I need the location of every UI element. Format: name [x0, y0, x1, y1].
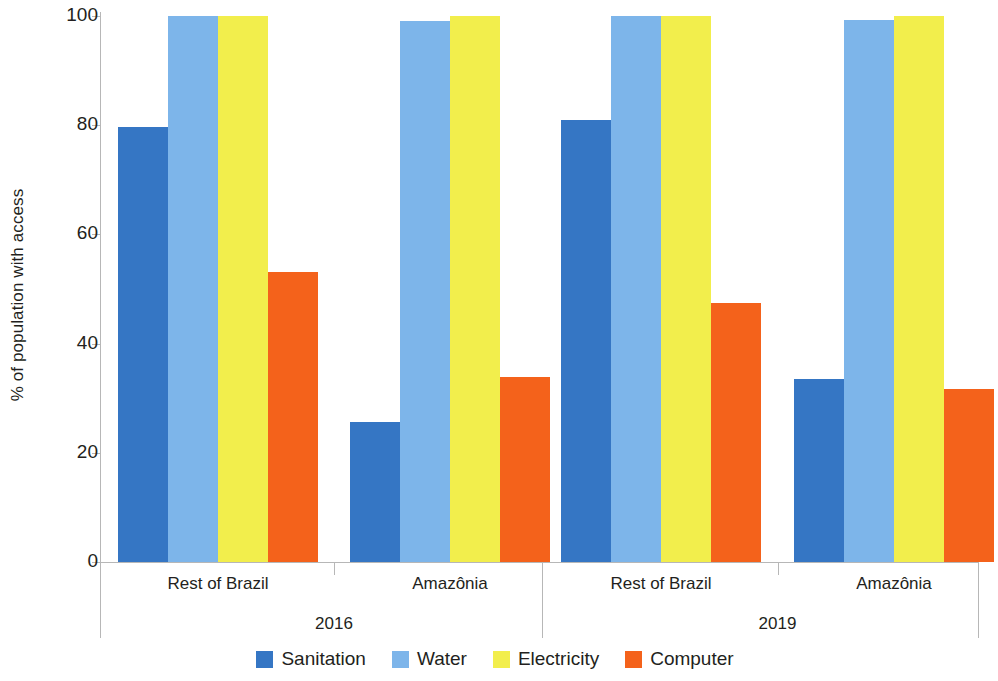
legend-label: Electricity — [518, 648, 599, 670]
bar-sanitation-3 — [794, 379, 844, 562]
bar-computer-1 — [500, 377, 550, 562]
x-axis-group-label: 2016 — [254, 614, 414, 634]
plot-area — [100, 16, 978, 562]
legend-swatch-icon — [493, 651, 510, 668]
bar-electricity-0 — [218, 16, 268, 562]
bar-water-3 — [844, 20, 894, 562]
legend-item-electricity[interactable]: Electricity — [493, 648, 599, 670]
bar-computer-2 — [711, 303, 761, 562]
y-axis-title: % of population with access — [6, 22, 30, 568]
bar-water-1 — [400, 21, 450, 562]
legend-item-computer[interactable]: Computer — [625, 648, 733, 670]
y-axis-tick-label: 20 — [38, 441, 98, 463]
group-separator — [542, 562, 543, 638]
x-axis-group-tick — [334, 562, 335, 575]
chart-legend: SanitationWaterElectricityComputer — [0, 648, 990, 670]
legend-swatch-icon — [392, 651, 409, 668]
y-axis-tick-label: 60 — [38, 222, 98, 244]
legend-label: Water — [417, 648, 467, 670]
x-axis-category-label: Rest of Brazil — [551, 574, 771, 594]
x-axis-group-tick — [778, 562, 779, 575]
bar-sanitation-0 — [118, 127, 168, 562]
legend-swatch-icon — [625, 651, 642, 668]
bar-water-0 — [168, 16, 218, 562]
y-axis-tick-label: 80 — [38, 113, 98, 135]
axis-edge-tick — [978, 562, 979, 638]
bar-electricity-1 — [450, 16, 500, 562]
bar-electricity-2 — [661, 16, 711, 562]
axis-edge-tick — [100, 562, 101, 638]
legend-swatch-icon — [256, 651, 273, 668]
legend-item-water[interactable]: Water — [392, 648, 467, 670]
x-axis-category-label: Amazônia — [784, 574, 998, 594]
bar-electricity-3 — [894, 16, 944, 562]
legend-item-sanitation[interactable]: Sanitation — [256, 648, 366, 670]
bar-water-2 — [611, 16, 661, 562]
legend-label: Sanitation — [281, 648, 366, 670]
x-axis-line — [100, 562, 978, 563]
legend-label: Computer — [650, 648, 733, 670]
bar-sanitation-1 — [350, 422, 400, 562]
bar-sanitation-2 — [561, 120, 611, 562]
x-axis-group-label: 2019 — [698, 614, 858, 634]
x-axis-category-label: Rest of Brazil — [108, 574, 328, 594]
y-axis-tick-label: 40 — [38, 332, 98, 354]
x-axis-category-label: Amazônia — [340, 574, 560, 594]
bar-computer-3 — [944, 389, 994, 562]
bar-computer-0 — [268, 272, 318, 562]
y-axis-tick-label: 100 — [38, 4, 98, 26]
y-axis-tick-label: 0 — [38, 550, 98, 572]
